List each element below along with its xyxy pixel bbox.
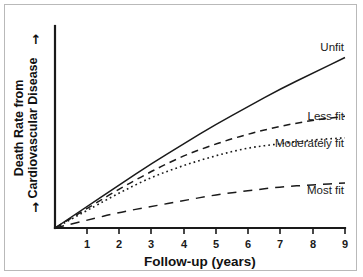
x-axis-title: Follow-up (years) (144, 254, 256, 269)
y-axis-title-line1: Death Rate from (12, 80, 26, 177)
series-label-moderately-fit: Moderately fit (275, 137, 345, 149)
y-axis-arrow-bottom: ↑ (31, 200, 42, 215)
x-tick-label-3: 3 (148, 238, 154, 250)
x-tick-label-2: 2 (116, 238, 122, 250)
curve-less-fit (55, 116, 345, 228)
series-label-less-fit: Less fit (308, 110, 345, 122)
line-chart: ↑ ↑ Death Rate from Cardiovascular Disea… (0, 0, 363, 277)
x-tick-label-9: 9 (342, 238, 348, 250)
x-tick-label-1: 1 (84, 238, 90, 250)
x-axis-tick-labels: 1 2 3 4 5 6 7 8 9 (84, 238, 348, 250)
series-labels: Unfit Less fit Moderately fit Most fit (275, 41, 345, 196)
x-tick-label-8: 8 (310, 238, 316, 250)
curve-most-fit (55, 183, 345, 228)
series-label-most-fit: Most fit (307, 184, 345, 196)
x-tick-label-6: 6 (245, 238, 251, 250)
x-tick-label-4: 4 (181, 238, 188, 250)
y-axis-title-line2: Cardiovascular Disease (26, 57, 40, 198)
y-axis-arrow-top: ↑ (31, 32, 42, 47)
curve-moderately-fit (55, 138, 345, 228)
x-tick-label-5: 5 (213, 238, 219, 250)
series-label-unfit: Unfit (320, 41, 344, 53)
y-axis-title-group: ↑ ↑ Death Rate from Cardiovascular Disea… (12, 32, 41, 215)
x-tick-label-7: 7 (277, 238, 283, 250)
